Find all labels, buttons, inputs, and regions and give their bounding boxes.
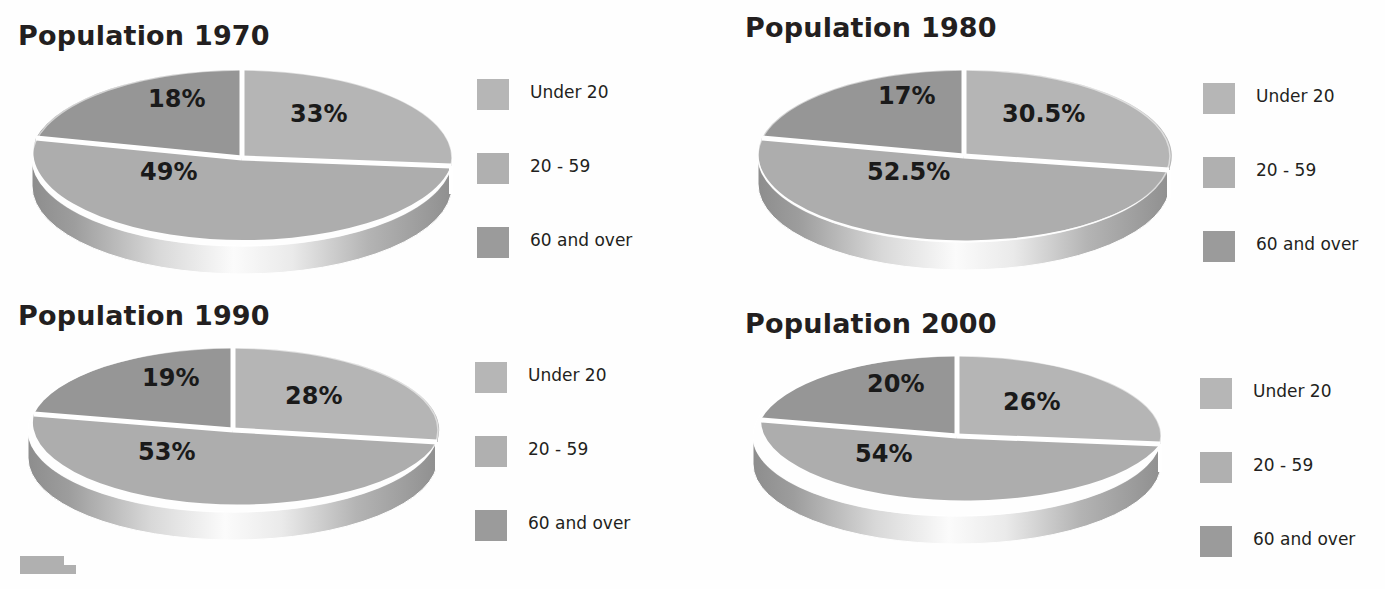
- legend-swatch-20-59: [475, 436, 507, 467]
- legend-swatch-20-59: [1203, 157, 1235, 188]
- cropped-legend-swatch-fragment: [20, 556, 64, 574]
- pie-chart-2000: [743, 348, 1173, 548]
- chart-panel-2000: Population 2000 20% 26% 54% Under 20 20 …: [695, 290, 1385, 589]
- legend-label-60-over: 60 and over: [1253, 529, 1355, 549]
- legend-label-under-20: Under 20: [530, 82, 609, 102]
- chart-panel-1980: Population 1980 17% 30.5% 52.5% Under 20…: [695, 0, 1385, 295]
- legend-label-20-59: 20 - 59: [530, 156, 590, 176]
- slice-label-1990-under-20: 28%: [285, 382, 342, 410]
- page-title-2000: Population 2000: [745, 308, 997, 339]
- chart-panel-1970: Population 1970 18% 33% 49% Under 2: [0, 0, 690, 295]
- legend-label-20-59: 20 - 59: [528, 439, 588, 459]
- slice-label-2000-60-over: 20%: [867, 370, 924, 398]
- legend-swatch-under-20: [1200, 378, 1232, 409]
- slice-label-1970-under-20: 33%: [290, 100, 347, 128]
- pie-svg-1980: [750, 58, 1180, 268]
- pie-chart-1970: [22, 58, 462, 268]
- legend-label-under-20: Under 20: [1256, 86, 1335, 106]
- page-title-1980: Population 1980: [745, 12, 997, 43]
- slice-label-1990-20-59: 53%: [138, 438, 195, 466]
- legend-label-60-over: 60 and over: [530, 230, 632, 250]
- cropped-legend-swatch-fragment-tail: [64, 565, 76, 574]
- page-title-1970: Population 1970: [18, 20, 270, 51]
- legend-swatch-60-over: [1203, 231, 1235, 262]
- legend-label-20-59: 20 - 59: [1253, 455, 1313, 475]
- legend-swatch-20-59: [477, 153, 509, 184]
- legend-swatch-under-20: [1203, 83, 1235, 114]
- pie-svg-1970: [22, 58, 462, 268]
- legend-swatch-under-20: [475, 362, 507, 393]
- slice-label-1970-60-over: 18%: [148, 85, 205, 113]
- slice-label-1970-20-59: 49%: [140, 158, 197, 186]
- slice-label-1990-60-over: 19%: [142, 364, 199, 392]
- legend-swatch-20-59: [1200, 452, 1232, 483]
- legend-swatch-under-20: [477, 79, 509, 110]
- pie-svg-1990: [20, 338, 450, 543]
- slice-label-1980-20-59: 52.5%: [867, 158, 950, 186]
- slice-label-1980-60-over: 17%: [878, 82, 935, 110]
- slice-label-2000-20-59: 54%: [855, 440, 912, 468]
- pie-chart-1980: [750, 58, 1180, 268]
- legend-swatch-60-over: [475, 510, 507, 541]
- legend-label-60-over: 60 and over: [528, 513, 630, 533]
- legend-swatch-60-over: [477, 227, 509, 258]
- legend-swatch-60-over: [1200, 526, 1232, 557]
- pie-chart-1990: [20, 338, 450, 543]
- legend-label-60-over: 60 and over: [1256, 234, 1358, 254]
- slice-label-2000-under-20: 26%: [1003, 388, 1060, 416]
- legend-label-under-20: Under 20: [1253, 381, 1332, 401]
- chart-panel-1990: Population 1990 19% 28% 53% Under 20 20 …: [0, 290, 690, 589]
- legend-label-20-59: 20 - 59: [1256, 160, 1316, 180]
- slice-label-1980-under-20: 30.5%: [1002, 100, 1085, 128]
- legend-label-under-20: Under 20: [528, 365, 607, 385]
- pie-svg-2000: [743, 348, 1173, 548]
- page-title-1990: Population 1990: [18, 300, 270, 331]
